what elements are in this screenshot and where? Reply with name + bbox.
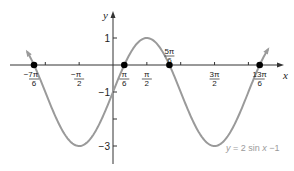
curve bbox=[26, 38, 269, 146]
x-tick-label-numerator: π bbox=[122, 70, 128, 79]
zero-point-dot bbox=[121, 62, 128, 69]
x-tick-label-denominator: 2 bbox=[212, 79, 217, 88]
curve-right-arrow-icon bbox=[263, 47, 269, 54]
sine-graph: −7π6−π2π6π25π63π213π61−1−3 x y y = 2 sin… bbox=[0, 0, 294, 171]
x-tick-label-numerator: 3π bbox=[210, 70, 220, 79]
y-tick-label: −1 bbox=[99, 87, 111, 98]
curve-left-arrow-icon bbox=[26, 50, 32, 57]
sine-curve bbox=[27, 38, 267, 146]
x-tick-label-numerator: 13π bbox=[252, 70, 267, 79]
equation-mid: = 2 sin bbox=[231, 143, 263, 153]
x-tick-label-numerator: π bbox=[144, 70, 150, 79]
equation-end: −1 bbox=[267, 143, 280, 153]
zero-point-dot bbox=[31, 62, 38, 69]
ticks: −7π6−π2π6π25π63π213π61−1−3 bbox=[24, 33, 268, 152]
x-axis-label: x bbox=[282, 69, 288, 81]
x-tick-label-denominator: 6 bbox=[32, 79, 37, 88]
zero-point-dot bbox=[256, 62, 263, 69]
zero-point-dot bbox=[166, 62, 173, 69]
x-tick-label-numerator: −π bbox=[71, 70, 82, 79]
equation-label: y = 2 sin x −1 bbox=[225, 143, 280, 153]
y-axis-label: y bbox=[102, 9, 108, 21]
x-tick-label-numerator: −7π bbox=[24, 70, 39, 79]
x-tick-label-denominator: 6 bbox=[257, 79, 262, 88]
x-tick-label-numerator: 5π bbox=[164, 47, 174, 56]
x-tick-label-denominator: 6 bbox=[122, 79, 127, 88]
plot-area: −7π6−π2π6π25π63π213π61−1−3 x y y = 2 sin… bbox=[0, 0, 294, 171]
x-tick-label-denominator: 2 bbox=[77, 79, 82, 88]
x-tick-label-denominator: 2 bbox=[145, 79, 150, 88]
y-tick-label: 1 bbox=[104, 33, 110, 44]
y-axis-arrow-icon bbox=[111, 11, 116, 18]
x-axis-arrow-icon bbox=[277, 63, 284, 68]
y-tick-label: −3 bbox=[99, 141, 111, 152]
